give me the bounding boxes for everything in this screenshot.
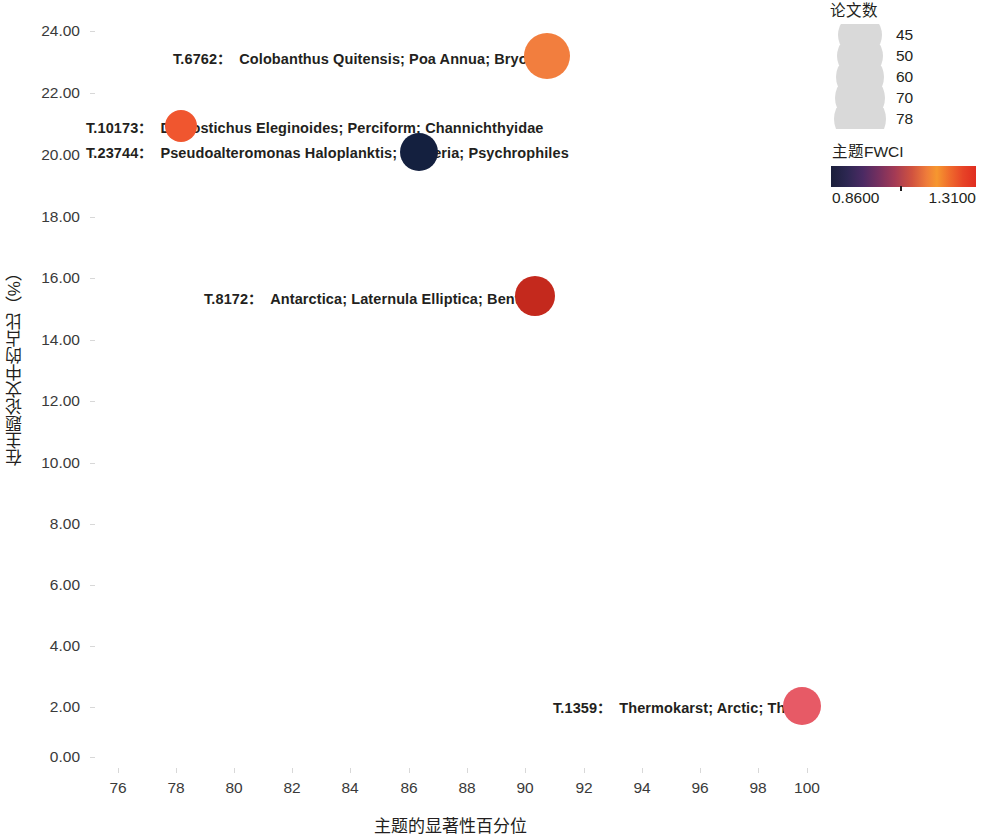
- size-legend-row: 60: [828, 66, 984, 87]
- point-desc: Antarctica; Laternula Elliptica; Benthos: [264, 291, 546, 307]
- x-tick-mark: [525, 768, 526, 773]
- x-tick-mark: [807, 768, 808, 773]
- y-tick-label: 24.00: [14, 22, 80, 40]
- colorbar-gradient: [831, 166, 976, 187]
- size-legend-row: 70: [828, 87, 984, 108]
- size-swatch-circle: [838, 24, 882, 45]
- bubble-chart: 在主题论文中的占比（%） 主题的显著性百分位 0.00 2.00 4.00 6.…: [0, 0, 987, 837]
- y-tick-mark: [90, 217, 95, 218]
- x-tick-mark: [467, 768, 468, 773]
- y-tick-mark: [90, 757, 95, 758]
- size-legend-label: 60: [896, 66, 913, 87]
- point-id: T.23744：: [86, 145, 154, 161]
- x-tick-mark: [700, 768, 701, 773]
- size-legend-label: 70: [896, 87, 913, 108]
- size-legend-title: 论文数: [830, 2, 984, 20]
- x-tick-mark: [292, 768, 293, 773]
- size-swatch-holder: [834, 24, 886, 45]
- y-tick-mark: [90, 524, 95, 525]
- point-id: T.10173：: [86, 120, 154, 136]
- y-tick-mark: [90, 31, 95, 32]
- size-swatch-circle: [836, 66, 884, 87]
- size-swatch-holder: [834, 87, 886, 108]
- x-tick-label: 92: [575, 779, 592, 797]
- x-tick-label: 80: [225, 779, 242, 797]
- x-tick-mark: [350, 768, 351, 773]
- y-tick-mark: [90, 401, 95, 402]
- x-tick-mark: [584, 768, 585, 773]
- size-legend-label: 50: [896, 45, 913, 66]
- point-label-t6762: T.6762：Colobanthus Quitensis; Poa Annua;…: [173, 47, 567, 68]
- colorbar-max-label: 1.3100: [929, 189, 976, 207]
- point-desc: Dissostichus Eleginoides; Perciform; Cha…: [154, 120, 543, 136]
- x-tick-label: 86: [400, 779, 417, 797]
- x-tick-mark: [642, 768, 643, 773]
- y-tick-label: 22.00: [14, 84, 80, 102]
- point-id: T.8172：: [204, 291, 264, 307]
- size-swatch-circle: [835, 87, 885, 108]
- y-tick-mark: [90, 707, 95, 708]
- point-id: T.1359：: [553, 700, 613, 716]
- y-tick-label: 6.00: [14, 576, 80, 594]
- x-axis-title: 主题的显著性百分位: [0, 812, 900, 837]
- y-tick-mark: [90, 278, 95, 279]
- y-tick-label: 10.00: [14, 454, 80, 472]
- x-tick-mark: [234, 768, 235, 773]
- x-tick-mark: [758, 768, 759, 773]
- x-tick-label: 76: [109, 779, 126, 797]
- size-legend-label: 78: [896, 108, 913, 129]
- size-legend-row: 50: [828, 45, 984, 66]
- x-tick-label: 88: [458, 779, 475, 797]
- y-tick-label: 18.00: [14, 208, 80, 226]
- y-tick-mark: [90, 93, 95, 94]
- y-tick-label: 8.00: [14, 515, 80, 533]
- y-tick-label: 2.00: [14, 698, 80, 716]
- y-tick-mark: [90, 585, 95, 586]
- size-legend: 论文数 45 50 60 70: [828, 2, 984, 129]
- point-desc: Colobanthus Quitensis; Poa Annua; Bryoph…: [233, 51, 567, 67]
- x-tick-label: 96: [691, 779, 708, 797]
- y-tick-mark: [90, 646, 95, 647]
- y-tick-mark: [90, 463, 95, 464]
- size-legend-label: 45: [896, 24, 913, 45]
- x-tick-label: 98: [749, 779, 766, 797]
- y-tick-label: 16.00: [14, 269, 80, 287]
- y-tick-label: 14.00: [14, 331, 80, 349]
- size-swatch-circle: [834, 108, 886, 129]
- size-swatch-circle: [837, 45, 883, 66]
- x-tick-label: 94: [633, 779, 650, 797]
- y-tick-mark: [90, 340, 95, 341]
- point-desc: Thermokarst; Arctic; Thaw: [613, 700, 805, 716]
- x-tick-mark: [118, 768, 119, 773]
- size-legend-row: 45: [828, 24, 984, 45]
- x-tick-label: 78: [167, 779, 184, 797]
- point-label-t1359: T.1359：Thermokarst; Arctic; Thaw: [553, 696, 805, 717]
- point-label-t23744: T.23744：Pseudoalteromonas Haloplanktis; …: [86, 141, 569, 162]
- y-tick-label: 20.00: [14, 146, 80, 164]
- colorbar-min-label: 0.8600: [832, 189, 879, 207]
- x-tick-mark: [409, 768, 410, 773]
- data-point-t10173[interactable]: [165, 110, 197, 142]
- y-tick-label: 12.00: [14, 392, 80, 410]
- point-id: T.6762：: [173, 51, 233, 67]
- y-tick-label: 0.00: [14, 748, 80, 766]
- point-label-t8172: T.8172：Antarctica; Laternula Elliptica; …: [204, 287, 546, 308]
- x-tick-label: 90: [516, 779, 533, 797]
- size-swatch-holder: [834, 66, 886, 87]
- data-point-t23744[interactable]: [400, 133, 438, 171]
- x-tick-label: 100: [794, 779, 820, 797]
- point-label-t10173: T.10173：Dissostichus Eleginoides; Percif…: [86, 116, 544, 137]
- size-swatch-holder: [834, 108, 886, 129]
- x-tick-label: 84: [341, 779, 358, 797]
- color-legend: 主题FWCI 0.8600 1.3100: [831, 143, 983, 209]
- size-legend-row: 78: [828, 108, 984, 129]
- data-point-t1359[interactable]: [783, 687, 821, 725]
- point-desc: Pseudoalteromonas Haloplanktis; Bacteria…: [154, 145, 568, 161]
- color-legend-title: 主题FWCI: [832, 143, 983, 161]
- x-tick-mark: [176, 768, 177, 773]
- data-point-t6762[interactable]: [524, 33, 570, 79]
- size-swatch-holder: [834, 45, 886, 66]
- x-tick-label: 82: [283, 779, 300, 797]
- data-point-t8172[interactable]: [515, 276, 555, 316]
- y-tick-label: 4.00: [14, 637, 80, 655]
